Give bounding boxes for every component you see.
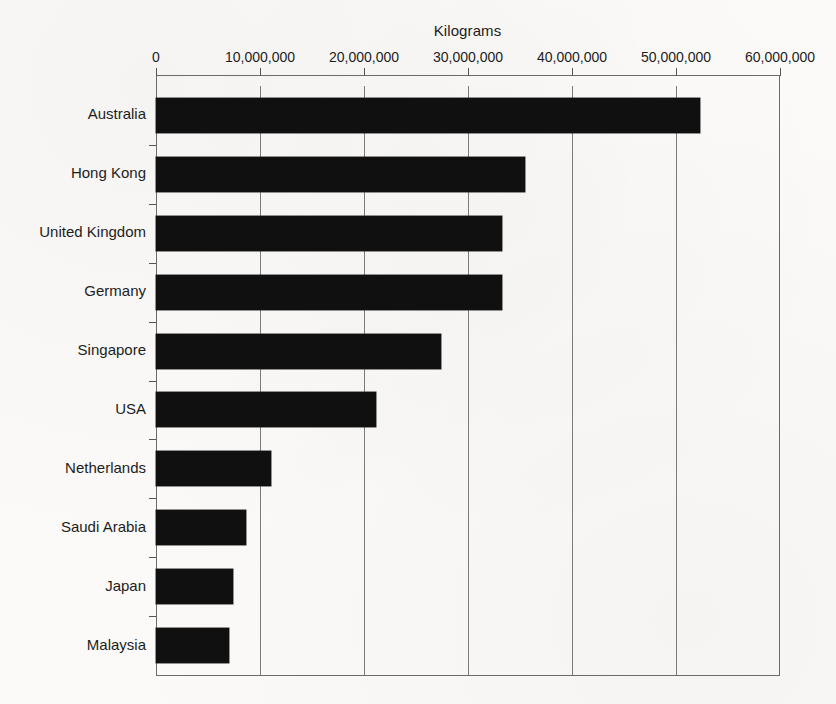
bar — [156, 216, 502, 251]
category-label: Hong Kong — [0, 164, 146, 181]
x-tick-label: 0 — [152, 49, 160, 65]
gridline — [572, 86, 573, 675]
category-label: Singapore — [0, 341, 146, 358]
bar — [156, 451, 271, 486]
bar — [156, 98, 700, 133]
chart-title: Kilograms — [0, 22, 836, 39]
category-label: Netherlands — [0, 459, 146, 476]
category-axis-tick — [149, 204, 156, 205]
gridline — [676, 86, 677, 675]
bar — [156, 628, 229, 663]
x-tick-label: 10,000,000 — [225, 49, 295, 65]
category-axis-labels: AustraliaHong KongUnited KingdomGermanyS… — [0, 86, 146, 675]
category-axis-tick — [149, 322, 156, 323]
x-axis-tick — [572, 68, 573, 76]
x-tick-label: 60,000,000 — [745, 49, 815, 65]
category-axis-tick — [149, 263, 156, 264]
category-axis-tick — [149, 616, 156, 617]
bar — [156, 569, 233, 604]
category-label: Malaysia — [0, 636, 146, 653]
category-label: Japan — [0, 577, 146, 594]
bar — [156, 334, 441, 369]
x-tick-label: 40,000,000 — [537, 49, 607, 65]
chart-page: Kilograms 010,000,00020,000,00030,000,00… — [0, 0, 836, 704]
x-tick-label: 50,000,000 — [641, 49, 711, 65]
category-label: USA — [0, 400, 146, 417]
x-axis-tick — [468, 68, 469, 76]
category-axis-tick — [149, 498, 156, 499]
category-label: Germany — [0, 282, 146, 299]
category-axis-tick — [149, 145, 156, 146]
plot-bottom-border — [156, 675, 780, 676]
x-axis-tick — [364, 68, 365, 76]
category-axis-tick — [149, 439, 156, 440]
bar — [156, 157, 525, 192]
x-tick-label: 20,000,000 — [329, 49, 399, 65]
x-axis-tick — [676, 68, 677, 76]
category-label: Australia — [0, 105, 146, 122]
x-axis-tick — [780, 68, 781, 76]
category-label: United Kingdom — [0, 223, 146, 240]
category-axis-tick — [149, 557, 156, 558]
x-axis-tick — [260, 68, 261, 76]
plot-right-border — [779, 75, 780, 675]
x-axis-tick-labels: 010,000,00020,000,00030,000,00040,000,00… — [0, 49, 836, 69]
bar — [156, 392, 376, 427]
plot-area — [156, 86, 780, 675]
bar — [156, 275, 502, 310]
x-tick-label: 30,000,000 — [433, 49, 503, 65]
category-axis-tick — [149, 381, 156, 382]
bar — [156, 510, 246, 545]
x-axis-tick — [156, 68, 157, 76]
category-label: Saudi Arabia — [0, 518, 146, 535]
